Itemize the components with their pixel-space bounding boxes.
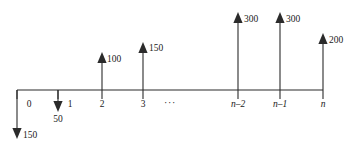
- period-label-1: 1: [68, 99, 73, 109]
- flow-value-period-n-2: 300: [244, 14, 259, 24]
- period-label-n-1: n–1: [273, 99, 287, 109]
- arrow-head-up-3: [138, 42, 147, 53]
- flow-value-period-1: 50: [53, 114, 63, 124]
- arrow-head-down-0: [12, 128, 21, 139]
- cash-flow-svg: 150 50 100 150 300 3: [0, 0, 359, 152]
- arrow-head-up-n-2: [233, 12, 242, 23]
- period-label-0: 0: [27, 99, 32, 109]
- flow-arrow-period-2: 100: [97, 52, 121, 90]
- flow-value-period-2: 100: [107, 54, 122, 64]
- period-label-3: 3: [141, 99, 146, 109]
- period-label-2: 2: [100, 99, 105, 109]
- flow-arrow-period-n-1: 300: [275, 12, 300, 90]
- flow-value-period-n: 200: [329, 35, 344, 45]
- arrow-head-down-1: [53, 101, 62, 112]
- flow-arrow-period-0: 150: [12, 90, 37, 140]
- arrow-head-up-n: [318, 33, 327, 44]
- period-label-n-2: n–2: [231, 99, 246, 109]
- arrow-head-up-2: [97, 52, 106, 63]
- ellipsis-label: ···: [164, 97, 176, 108]
- flow-arrow-period-n: 200: [318, 33, 343, 90]
- cash-flow-diagram: 150 50 100 150 300 3: [0, 0, 359, 152]
- arrow-head-up-n-1: [275, 12, 284, 23]
- flow-arrow-period-1: 50: [53, 90, 63, 124]
- period-label-n: n: [321, 99, 326, 109]
- flow-arrow-period-n-2: 300: [233, 12, 258, 90]
- flow-arrow-period-3: 150: [138, 42, 163, 90]
- flow-value-period-n-1: 300: [286, 14, 301, 24]
- flow-value-period-0: 150: [23, 130, 38, 140]
- flow-value-period-3: 150: [149, 43, 164, 53]
